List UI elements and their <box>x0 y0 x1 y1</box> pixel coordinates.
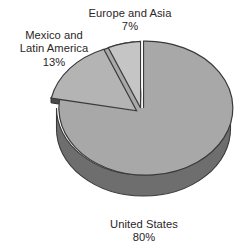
pie-slice-gap <box>141 41 143 108</box>
slice-label-mexico-line2: Latin America <box>2 42 106 55</box>
slice-label-europe-asia-name: Europe and Asia <box>89 7 172 19</box>
slice-label-united-states-name: United States <box>110 218 178 230</box>
slice-label-mexico-line1: Mexico and <box>25 29 83 41</box>
pie-chart: Europe and Asia 7% Mexico and Latin Amer… <box>0 0 246 249</box>
slice-label-united-states-percent: 80% <box>92 231 196 244</box>
slice-label-united-states: United States 80% <box>92 218 196 245</box>
slice-label-mexico-latin-america: Mexico and Latin America 13% <box>2 29 106 69</box>
slice-label-mexico-percent: 13% <box>2 56 106 69</box>
